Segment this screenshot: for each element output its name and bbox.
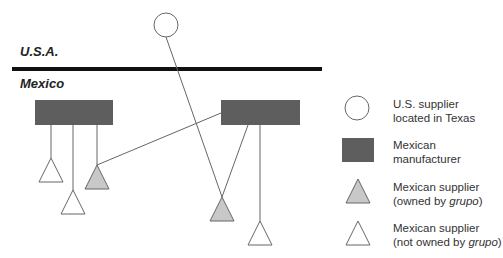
legend-line: (owned by grupo) xyxy=(393,194,483,208)
legend-line: U.S. supplier xyxy=(393,97,475,111)
legend-line: located in Texas xyxy=(393,111,475,125)
manufacturer-left xyxy=(35,100,113,125)
legend-line: Mexican supplier xyxy=(393,180,483,194)
legend-owned-supplier: Mexican supplier (owned by grupo) xyxy=(393,180,483,208)
legend-manufacturer: Mexican manufacturer xyxy=(393,138,461,166)
us-supplier-circle xyxy=(154,13,178,37)
border-line xyxy=(12,67,322,71)
legend-white-triangle-icon xyxy=(346,221,370,245)
legend-line: (not owned by grupo) xyxy=(393,235,502,249)
usa-label: U.S.A. xyxy=(20,44,58,59)
legend-gray-triangle-icon xyxy=(346,179,370,203)
legend-line: Mexican xyxy=(393,138,461,152)
supplier-owned-1 xyxy=(85,165,109,189)
legend-line: manufacturer xyxy=(393,152,461,166)
manufacturer-right xyxy=(221,100,300,125)
supplier-not-owned-3 xyxy=(248,221,272,245)
supplier-owned-2 xyxy=(210,197,234,221)
legend-not-owned-supplier: Mexican supplier (not owned by grupo) xyxy=(393,221,502,249)
supply-network-diagram xyxy=(0,0,503,258)
supplier-not-owned-1 xyxy=(39,158,63,182)
connection-lines xyxy=(51,37,260,221)
legend-rectangle-icon xyxy=(342,138,374,162)
legend-line: Mexican supplier xyxy=(393,221,502,235)
mexico-label: Mexico xyxy=(20,76,64,91)
legend-circle-icon xyxy=(345,96,369,120)
supplier-not-owned-2 xyxy=(61,190,85,214)
legend-us-supplier: U.S. supplier located in Texas xyxy=(393,97,475,125)
